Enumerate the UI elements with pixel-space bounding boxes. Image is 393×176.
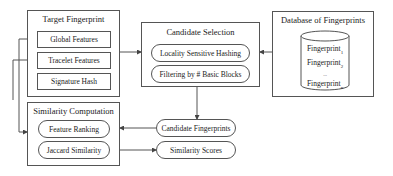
- jaccard-similarity-oval: Jaccard Similarity: [38, 141, 110, 159]
- similarity-scores-oval: Similarity Scores: [156, 141, 236, 159]
- target-fingerprint-title: Target Fingerprint: [28, 14, 119, 24]
- similarity-computation-group: Similarity Computation Feature Ranking J…: [27, 102, 120, 166]
- similarity-computation-title: Similarity Computation: [28, 106, 119, 116]
- database-title: Database of Fingerprints: [273, 15, 373, 25]
- db-entry: Fingerprintn: [300, 79, 350, 93]
- target-fingerprint-group: Target Fingerprint Global Features Trace…: [27, 10, 120, 97]
- candidate-selection-group: Candidate Selection Locality Sensitive H…: [141, 22, 260, 87]
- database-group: Database of Fingerprints Fingerprint1 Fi…: [272, 11, 374, 97]
- db-ellipsis: ...: [300, 71, 350, 79]
- db-entry: Fingerprint1: [300, 44, 350, 58]
- candidate-fingerprints-oval: Candidate Fingerprints: [156, 119, 236, 137]
- signature-hash-box: Signature Hash: [37, 73, 111, 90]
- db-entry: Fingerprint2: [300, 58, 350, 72]
- candidate-selection-title: Candidate Selection: [142, 27, 259, 37]
- tracelet-features-box: Tracelet Features: [37, 52, 111, 69]
- filtering-basic-blocks-oval: Filtering by # Basic Blocks: [151, 65, 250, 83]
- locality-sensitive-hashing-oval: Locality Sensitive Hashing: [151, 44, 250, 62]
- feature-ranking-oval: Feature Ranking: [38, 120, 110, 138]
- global-features-box: Global Features: [37, 31, 111, 48]
